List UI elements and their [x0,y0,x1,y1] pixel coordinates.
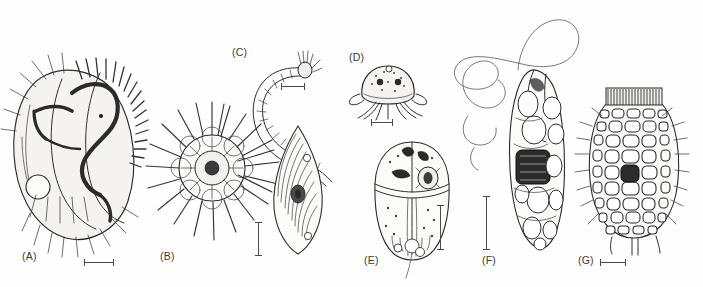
scale-bar-a [84,262,114,263]
scale-bar-d [371,122,393,123]
scale-bar-b [258,222,259,256]
scale-bar-e [440,205,441,250]
oral-cilia-crown [606,88,662,105]
ciliate-anterior-tuft [298,51,322,78]
panel-label-g: (G) [578,254,594,266]
panel-label-f: (F) [482,254,496,266]
macronucleus [621,165,639,182]
contractile-vacuole [26,175,50,199]
figure-plate: (A) (B) (C) (D) (E) (F) (G) [0,0,703,287]
panel-a-illustration [0,45,150,265]
panel-f-illustration [450,8,590,258]
panel-label-b: (B) [160,250,175,262]
panel-label-d: (D) [349,51,364,63]
amoeba-test-shell [349,66,426,105]
panel-label-e: (E) [364,254,379,266]
basal-appendages [611,236,661,255]
panel-d-illustration [338,60,438,122]
pseudopodia [358,102,422,120]
scale-bar-f [486,196,487,250]
scale-bar-g [600,262,626,263]
panel-label-c: (C) [232,46,247,58]
panel-label-a: (A) [22,250,37,262]
scale-bar-c [281,86,305,87]
panel-g-illustration [572,82,697,257]
